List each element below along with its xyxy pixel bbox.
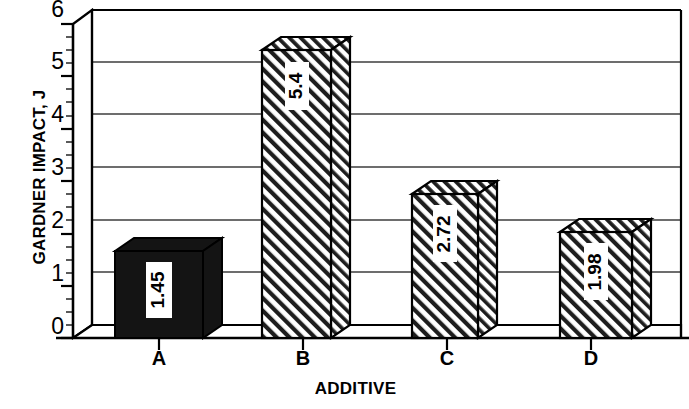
- bar-c-value-label: 2.72: [433, 216, 454, 253]
- axis-side-wall: [73, 10, 92, 338]
- y-axis-major-ticks: [61, 24, 73, 338]
- bar-c-side: [478, 181, 497, 338]
- bar-d-value-label: 1.98: [584, 254, 605, 291]
- bar-a-side: [203, 238, 222, 338]
- bar-c[interactable]: 2.72: [412, 181, 497, 338]
- bar-a[interactable]: 1.45: [115, 238, 222, 338]
- chart-figure: GARDNER IMPACT, J 6 5 4 3 2 1 0 A B C D …: [0, 0, 689, 409]
- bar-b-value-label: 5.4: [285, 72, 306, 99]
- x-axis-ticks: [159, 338, 591, 350]
- bar-d-side: [632, 219, 651, 338]
- bar-d[interactable]: 1.98: [560, 219, 651, 338]
- bar-b[interactable]: 5.4: [262, 37, 350, 338]
- bar-a-value-label: 1.45: [147, 271, 168, 308]
- plot-area: 1.45 5.4 2.72 1.98: [0, 0, 689, 409]
- bar-b-side: [331, 37, 350, 338]
